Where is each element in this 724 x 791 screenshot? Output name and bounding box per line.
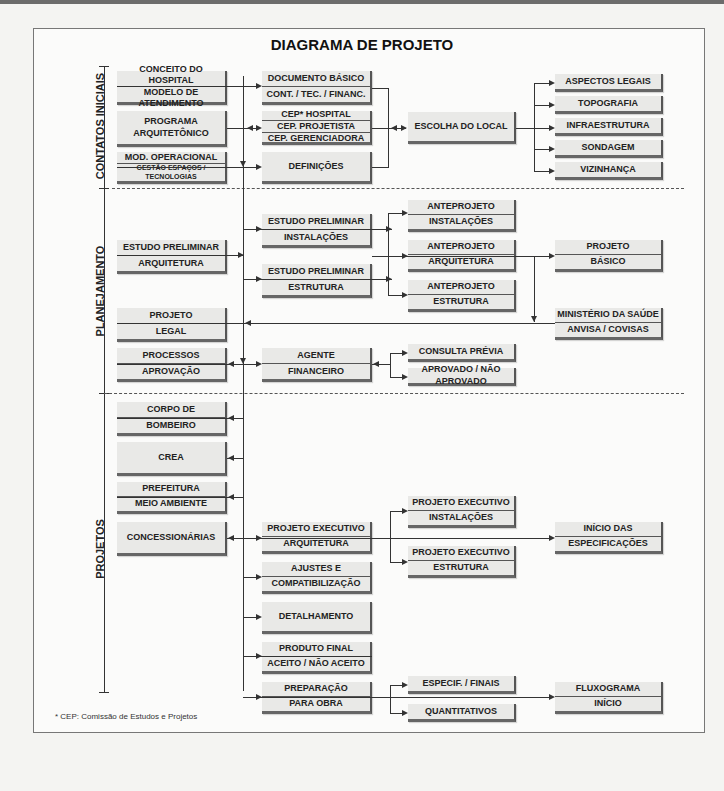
connector [243, 656, 372, 657]
box-aspectos-legais[interactable]: ASPECTOS LEGAIS [555, 74, 663, 92]
phase-label-contatos-iniciais: CONTATOS INICIAIS [94, 66, 106, 186]
arrow-right-icon [256, 361, 262, 367]
connector [534, 256, 535, 322]
box-quantitativos[interactable]: QUANTITATIVOS [408, 704, 516, 722]
box-ep-estrutura[interactable]: ESTUDO PRELIMINAR ESTRUTURA [262, 264, 372, 298]
arrow-right-icon [238, 252, 244, 258]
phase-separator-2 [104, 393, 684, 394]
box-agente-financeiro[interactable]: AGENTE FINANCEIRO [262, 348, 372, 382]
arrow-right-icon [256, 164, 262, 170]
phase-label-planejamento: PLANEJAMENTO [94, 231, 106, 351]
top-band [0, 0, 724, 4]
arrow-left-icon [228, 455, 234, 461]
connector [390, 511, 391, 563]
box-especif-finais[interactable]: ESPECIF. / FINAIS [408, 676, 516, 694]
connector [117, 86, 260, 87]
arrow-right-icon [402, 508, 408, 514]
box-vizinhanca[interactable]: VIZINHANÇA [555, 162, 663, 180]
box-ap-instalacoes[interactable]: ANTEPROJETO INSTALAÇÕES [408, 200, 516, 232]
timeline-tick-bottom [99, 692, 109, 693]
connector [117, 418, 243, 419]
box-pe-instalacoes[interactable]: PROJETO EXECUTIVO INSTALAÇÕES [408, 496, 516, 528]
box-pe-estrutura[interactable]: PROJETO EXECUTIVO ESTRUTURA [408, 546, 516, 578]
arrow-right-icon [402, 710, 408, 716]
box-fluxograma-inicio[interactable]: FLUXOGRAMA INÍCIO [555, 682, 663, 714]
arrow-right-icon [256, 653, 262, 659]
arrow-right-icon [256, 694, 262, 700]
box-mod-operacional[interactable]: MOD. OPERACIONAL GESTÃO ESPAÇOS / TECNOL… [117, 152, 227, 184]
box-sondagem[interactable]: SONDAGEM [555, 140, 663, 158]
arrow-right-icon [386, 276, 392, 282]
arrow-down-icon [240, 358, 246, 364]
box-inicio-especificacoes[interactable]: INÍCIO DAS ESPECIFICAÇÕES [555, 522, 663, 554]
arrow-right-icon [386, 226, 392, 232]
box-produto-final[interactable]: PRODUTO FINAL ACEITO / NÃO ACEITO [262, 642, 372, 674]
arrow-right-icon [256, 125, 262, 131]
arrow-right-icon [256, 226, 262, 232]
box-corpo-bombeiro[interactable]: CORPO DE BOMBEIRO [117, 402, 227, 436]
arrow-right-icon [549, 253, 555, 259]
arrow-right-icon [256, 574, 262, 580]
main-spine [243, 76, 244, 691]
box-projeto-legal[interactable]: PROJETO LEGAL [117, 308, 227, 342]
connector [117, 323, 555, 324]
arrow-right-icon [402, 210, 408, 216]
arrow-left-icon [245, 320, 251, 326]
arrow-right-icon [549, 168, 555, 174]
arrow-right-icon [549, 694, 555, 700]
arrow-left-icon [228, 494, 234, 500]
box-ajustes-compatibilizacao[interactable]: AJUSTES E COMPATIBILIZAÇÃO [262, 562, 372, 594]
connector [117, 255, 243, 256]
box-processos-aprovacao[interactable]: PROCESSOS APROVAÇÃO [117, 348, 227, 382]
arrow-right-icon [256, 83, 262, 89]
box-consulta-previa[interactable]: CONSULTA PRÉVIA [408, 344, 516, 362]
arrow-left-icon [247, 125, 253, 131]
box-documento-basico[interactable]: DOCUMENTO BÁSICO CONT. / TEC. / FINANC. [262, 71, 372, 105]
box-ep-arquitetura[interactable]: ESTUDO PRELIMINAR ARQUITETURA [117, 240, 227, 274]
box-prefeitura[interactable]: PREFEITURA MEIO AMBIENTE [117, 482, 227, 514]
box-preparacao-obra[interactable]: PREPARAÇÃO PARA OBRA [262, 682, 372, 714]
box-projeto-basico[interactable]: PROJETO BÁSICO [555, 240, 663, 272]
phase-label-projetos: PROJETOS [94, 489, 106, 609]
arrow-right-icon [549, 102, 555, 108]
arrow-right-icon [402, 292, 408, 298]
box-conceito-hospital[interactable]: CONCEITO DO HOSPITAL MODELO DE ATENDIMEN… [117, 71, 227, 105]
connector [390, 353, 391, 377]
connector [117, 167, 260, 168]
box-infraestrutura[interactable]: INFRAESTRUTURA [555, 118, 663, 136]
arrow-right-icon [549, 80, 555, 86]
timeline-tick-1 [99, 188, 109, 189]
box-escolha-do-local[interactable]: ESCOLHA DO LOCAL [408, 112, 516, 144]
box-ep-instalacoes[interactable]: ESTUDO PRELIMINAR INSTALAÇÕES [262, 214, 372, 248]
connector [534, 83, 535, 171]
arrow-down-icon [240, 161, 246, 167]
box-cep[interactable]: CEP* HOSPITAL CEP. PROJETISTA CEP. GEREN… [262, 111, 372, 145]
connector [388, 213, 389, 295]
arrow-left-icon [391, 125, 397, 131]
arrow-right-icon [256, 276, 262, 282]
footnote: * CEP: Comissão de Estudos e Projetos [55, 712, 197, 721]
arrow-right-icon [401, 125, 407, 131]
box-definicoes[interactable]: DEFINIÇÕES [262, 152, 372, 184]
arrow-left-icon [373, 361, 379, 367]
connector [243, 279, 392, 280]
diagram-title: DIAGRAMA DE PROJETO [0, 36, 724, 53]
arrow-right-icon [402, 374, 408, 380]
connector [372, 167, 388, 168]
box-ap-estrutura[interactable]: ANTEPROJETO ESTRUTURA [408, 280, 516, 312]
connector [117, 364, 260, 365]
connector [243, 229, 392, 230]
box-topografia[interactable]: TOPOGRAFIA [555, 96, 663, 114]
arrow-left-icon [228, 535, 234, 541]
box-detalhamento[interactable]: DETALHAMENTO [262, 602, 372, 634]
connector [243, 697, 553, 698]
connector [372, 88, 388, 89]
box-programa-arquitetonico[interactable]: PROGRAMA ARQUITETÔNICO [117, 111, 227, 147]
connector [372, 256, 553, 257]
arrow-left-icon [228, 361, 234, 367]
box-crea[interactable]: CREA [117, 442, 227, 476]
box-concessionarias[interactable]: CONCESSIONÁRIAS [117, 522, 227, 556]
connector [390, 685, 391, 713]
box-aprovado-nao-aprovado[interactable]: APROVADO / NÃO APROVADO [408, 368, 516, 386]
box-ministerio-saude[interactable]: MINISTÉRIO DA SAÚDE ANVISA / COVISAS [555, 308, 663, 340]
